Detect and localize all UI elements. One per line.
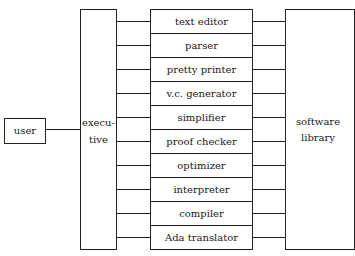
- module-vc-generator: v.c. generator: [151, 82, 252, 106]
- connector: [116, 237, 151, 238]
- module-interpreter: interpreter: [151, 178, 252, 202]
- connector: [252, 141, 286, 142]
- connector: [116, 69, 151, 70]
- connector: [252, 117, 286, 118]
- module-parser: parser: [151, 34, 252, 58]
- user-box: user: [4, 118, 46, 144]
- module-simplifier: simplifier: [151, 106, 252, 130]
- connector: [116, 117, 151, 118]
- executive-label-line2: tive: [81, 134, 116, 146]
- connector: [116, 213, 151, 214]
- executive-label-line1: execu-: [81, 117, 116, 129]
- connector: [252, 69, 286, 70]
- connector: [252, 165, 286, 166]
- connector: [252, 45, 286, 46]
- connector: [116, 21, 151, 22]
- connector: [252, 21, 286, 22]
- module-compiler: compiler: [151, 202, 252, 226]
- module-optimizer: optimizer: [151, 154, 252, 178]
- module-proof-checker: proof checker: [151, 130, 252, 154]
- connector: [116, 165, 151, 166]
- connector: [116, 45, 151, 46]
- module-text-editor: text editor: [151, 10, 252, 34]
- connector: [252, 189, 286, 190]
- connector: [116, 141, 151, 142]
- library-label-line2: library: [286, 132, 350, 144]
- user-label: user: [5, 125, 45, 137]
- connector: [116, 189, 151, 190]
- executive-box: execu- tive: [80, 9, 117, 250]
- connector: [252, 93, 286, 94]
- module-pretty-printer: pretty printer: [151, 58, 252, 82]
- module-ada-translator: Ada translator: [151, 226, 252, 249]
- software-library-box: software library: [285, 9, 355, 250]
- connector: [252, 213, 286, 214]
- connector: [116, 93, 151, 94]
- library-label-line1: software: [286, 116, 350, 128]
- user-executive-connector: [45, 129, 81, 130]
- connector: [252, 237, 286, 238]
- module-stack: text editor parser pretty printer v.c. g…: [150, 9, 253, 250]
